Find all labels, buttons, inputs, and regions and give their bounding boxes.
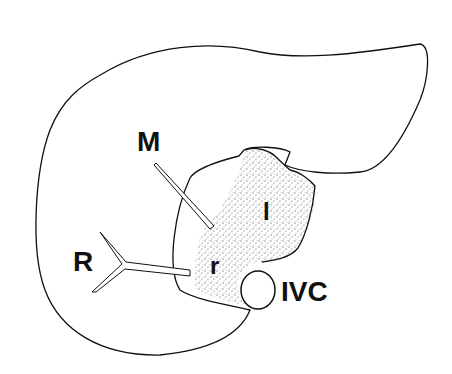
label-r-caudate: r [210,254,219,278]
liver-diagram [0,0,452,374]
middle-hepatic-vein [154,163,214,229]
label-r: R [73,248,93,276]
label-l-caudate: l [263,200,270,224]
ivc-circle [241,271,275,309]
label-ivc: IVC [281,278,328,306]
label-m: M [137,128,160,156]
right-hepatic-vein [92,232,190,292]
